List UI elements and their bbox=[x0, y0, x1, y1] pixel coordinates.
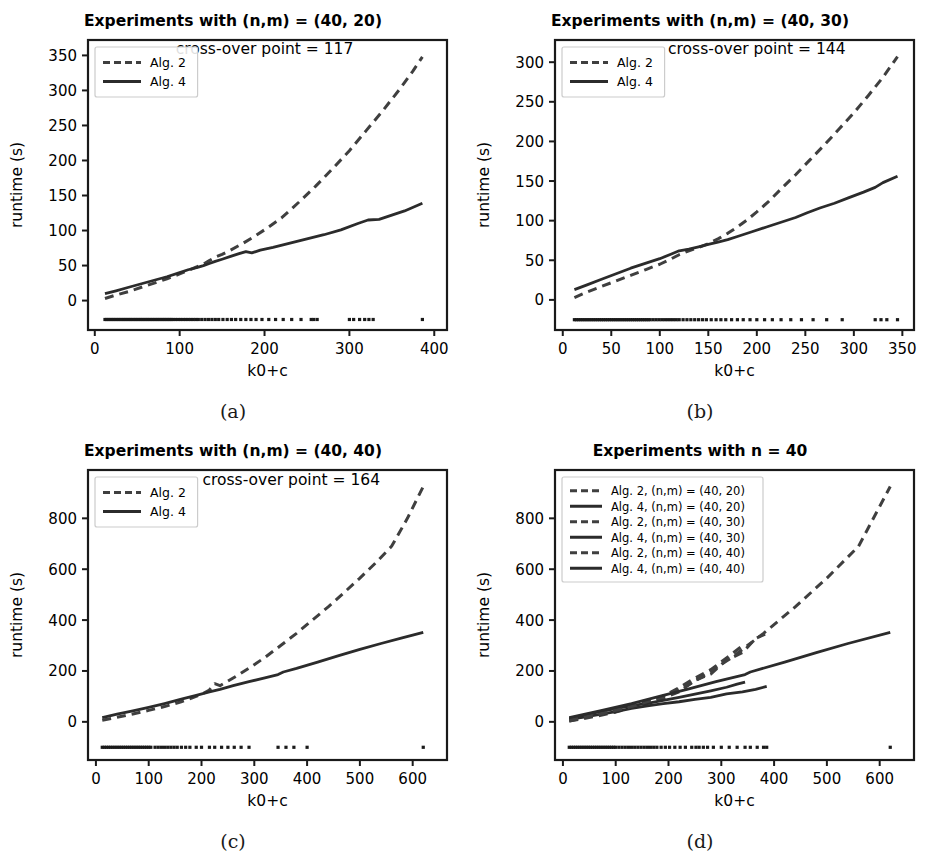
rug-mark bbox=[673, 746, 676, 749]
rug-mark bbox=[284, 746, 287, 749]
x-tick-label: 100 bbox=[601, 770, 630, 788]
rug-mark bbox=[367, 318, 370, 321]
rug-mark bbox=[210, 318, 213, 321]
legend-label-2: Alg. 4 bbox=[150, 504, 186, 519]
rug-mark bbox=[260, 318, 263, 321]
rug-mark bbox=[779, 318, 782, 321]
y-tick-label: 600 bbox=[48, 561, 77, 579]
x-axis-label: k0+c bbox=[247, 362, 287, 380]
rug-mark bbox=[226, 318, 229, 321]
rug-mark bbox=[825, 318, 828, 321]
legend: Alg. 2Alg. 4 bbox=[95, 477, 198, 527]
panel-d-caption: (d) bbox=[467, 830, 933, 852]
rug-mark bbox=[217, 318, 220, 321]
x-tick-label: 400 bbox=[293, 770, 322, 788]
rug-mark bbox=[200, 746, 203, 749]
rug-mark bbox=[200, 318, 203, 321]
x-tick-label: 50 bbox=[602, 340, 621, 358]
rug-mark bbox=[712, 746, 715, 749]
rug-mark bbox=[663, 318, 666, 321]
x-tick-label: 300 bbox=[707, 770, 736, 788]
rug-mark bbox=[180, 746, 183, 749]
rug-mark bbox=[166, 746, 169, 749]
x-axis-label: k0+c bbox=[714, 792, 754, 810]
rug-mark bbox=[648, 318, 651, 321]
rug-mark bbox=[705, 318, 708, 321]
rug-mark bbox=[627, 746, 630, 749]
legend-label-4: Alg. 4, (n,m) = (40, 30) bbox=[611, 531, 745, 545]
y-tick-label: 50 bbox=[525, 252, 544, 270]
rug-mark bbox=[254, 318, 257, 321]
rug-mark bbox=[195, 746, 198, 749]
y-axis-label: runtime (s) bbox=[8, 142, 26, 228]
rug-mark bbox=[214, 318, 217, 321]
rug-mark bbox=[149, 746, 152, 749]
rug-mark bbox=[646, 746, 649, 749]
series-line-2 bbox=[574, 176, 897, 289]
rug-mark bbox=[208, 746, 211, 749]
y-tick-label: 250 bbox=[515, 93, 544, 111]
chart-title: Experiments with (n,m) = (40, 30) bbox=[551, 12, 849, 30]
rug-mark bbox=[730, 318, 733, 321]
rug-mark bbox=[736, 746, 739, 749]
crossover-annotation: cross-over point = 144 bbox=[668, 40, 846, 58]
rug-mark bbox=[176, 746, 179, 749]
y-tick-label: 0 bbox=[67, 713, 77, 731]
y-tick-label: 250 bbox=[48, 117, 77, 135]
rug-mark bbox=[267, 318, 270, 321]
rug-mark bbox=[639, 746, 642, 749]
y-tick-label: 0 bbox=[67, 292, 77, 310]
x-tick-label: 100 bbox=[134, 770, 163, 788]
rug-mark bbox=[874, 318, 877, 321]
y-tick-label: 150 bbox=[515, 173, 544, 191]
y-tick-label: 200 bbox=[515, 662, 544, 680]
y-axis-label: runtime (s) bbox=[8, 572, 26, 658]
panel-b-caption: (b) bbox=[467, 400, 933, 422]
panel-d: Experiments with n = 4001002003004005006… bbox=[467, 430, 933, 860]
x-tick-label: 0 bbox=[558, 340, 568, 358]
x-axis-label: k0+c bbox=[714, 362, 754, 380]
rug-mark bbox=[652, 746, 655, 749]
rug-mark bbox=[669, 318, 672, 321]
rug-mark bbox=[698, 746, 701, 749]
rug-mark bbox=[226, 746, 229, 749]
rug-mark bbox=[800, 318, 803, 321]
rug-mark bbox=[316, 318, 319, 321]
legend-label-5: Alg. 2, (n,m) = (40, 40) bbox=[611, 546, 745, 560]
x-tick-label: 250 bbox=[791, 340, 820, 358]
legend-label-2: Alg. 4 bbox=[617, 74, 653, 89]
figure-four-panel-runtime-comparison: Experiments with (n,m) = (40, 20)0100200… bbox=[0, 0, 933, 860]
rug-mark bbox=[188, 746, 191, 749]
rug-mark bbox=[249, 318, 252, 321]
rug-mark bbox=[282, 318, 285, 321]
x-tick-label: 100 bbox=[165, 340, 194, 358]
rug-mark bbox=[292, 746, 295, 749]
legend-label-1: Alg. 2, (n,m) = (40, 20) bbox=[611, 484, 745, 498]
y-tick-label: 100 bbox=[515, 212, 544, 230]
x-tick-label: 500 bbox=[346, 770, 375, 788]
rug-mark bbox=[685, 318, 688, 321]
rug-mark bbox=[896, 318, 899, 321]
panel-a-plot: Experiments with (n,m) = (40, 20)0100200… bbox=[0, 0, 466, 388]
rug-mark bbox=[234, 318, 237, 321]
x-tick-label: 500 bbox=[813, 770, 842, 788]
x-tick-label: 100 bbox=[645, 340, 674, 358]
rug-mark bbox=[679, 746, 682, 749]
rug-mark bbox=[651, 318, 654, 321]
rug-mark bbox=[693, 318, 696, 321]
rug-mark bbox=[694, 746, 697, 749]
legend: Alg. 2Alg. 4 bbox=[562, 47, 665, 97]
rug-mark bbox=[184, 746, 187, 749]
rug-mark bbox=[169, 746, 172, 749]
panel-c: Experiments with (n,m) = (40, 40)0100200… bbox=[0, 430, 466, 860]
rug-mark bbox=[697, 318, 700, 321]
rug-mark bbox=[276, 746, 279, 749]
rug-mark bbox=[624, 746, 627, 749]
rug-mark bbox=[636, 746, 639, 749]
rug-mark bbox=[678, 318, 681, 321]
rug-mark bbox=[681, 318, 684, 321]
rug-mark bbox=[230, 318, 233, 321]
legend: Alg. 2Alg. 4 bbox=[95, 47, 198, 97]
rug-mark bbox=[684, 746, 687, 749]
x-tick-label: 400 bbox=[420, 340, 449, 358]
